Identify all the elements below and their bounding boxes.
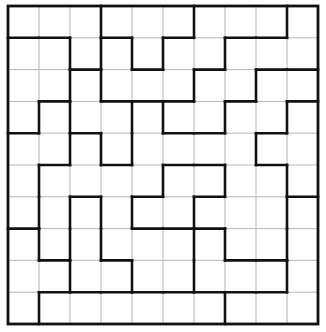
grid-cell[interactable]: [256, 133, 287, 165]
grid-cell[interactable]: [194, 70, 225, 102]
grid-cell[interactable]: [194, 260, 225, 292]
grid-cell[interactable]: [132, 38, 163, 70]
grid-cell[interactable]: [194, 38, 225, 70]
grid-cell[interactable]: [70, 101, 101, 133]
grid-cell[interactable]: [287, 229, 318, 261]
grid-cell[interactable]: [163, 70, 194, 102]
grid-cell[interactable]: [8, 38, 39, 70]
grid-cell[interactable]: [163, 38, 194, 70]
grid-cell[interactable]: [39, 70, 70, 102]
grid-cell[interactable]: [70, 133, 101, 165]
grid-cell[interactable]: [287, 70, 318, 102]
grid-cell[interactable]: [225, 70, 256, 102]
grid-cell[interactable]: [132, 229, 163, 261]
grid-cell[interactable]: [225, 38, 256, 70]
grid-cell[interactable]: [287, 165, 318, 197]
grid-cell[interactable]: [101, 70, 132, 102]
grid-cell[interactable]: [225, 292, 256, 324]
grid-cell[interactable]: [8, 292, 39, 324]
grid-cell[interactable]: [163, 165, 194, 197]
grid-cell[interactable]: [194, 229, 225, 261]
grid-cell[interactable]: [70, 165, 101, 197]
grid-cell[interactable]: [101, 38, 132, 70]
grid-cell[interactable]: [132, 292, 163, 324]
grid-cell[interactable]: [163, 260, 194, 292]
grid-cell[interactable]: [101, 292, 132, 324]
grid-cell[interactable]: [132, 6, 163, 38]
grid-cell[interactable]: [8, 101, 39, 133]
grid-cell[interactable]: [163, 101, 194, 133]
grid-cell[interactable]: [287, 260, 318, 292]
grid-cell[interactable]: [8, 260, 39, 292]
grid-cell[interactable]: [8, 197, 39, 229]
grid-cell[interactable]: [39, 101, 70, 133]
grid-cell[interactable]: [8, 133, 39, 165]
grid-cell[interactable]: [132, 101, 163, 133]
grid-cell[interactable]: [132, 197, 163, 229]
grid-cell[interactable]: [8, 6, 39, 38]
grid-cell[interactable]: [101, 197, 132, 229]
grid-cell[interactable]: [132, 133, 163, 165]
grid-cell[interactable]: [8, 229, 39, 261]
grid-cell[interactable]: [163, 133, 194, 165]
grid-cell[interactable]: [194, 101, 225, 133]
grid-cell[interactable]: [8, 165, 39, 197]
grid-cell[interactable]: [101, 133, 132, 165]
grid-cell[interactable]: [225, 197, 256, 229]
grid-cell[interactable]: [256, 70, 287, 102]
grid-cell[interactable]: [39, 38, 70, 70]
grid-cell[interactable]: [225, 229, 256, 261]
grid-cell[interactable]: [39, 133, 70, 165]
grid-cell[interactable]: [39, 229, 70, 261]
grid-cell[interactable]: [163, 229, 194, 261]
grid-cell[interactable]: [256, 101, 287, 133]
grid-cell[interactable]: [287, 197, 318, 229]
grid-cell[interactable]: [39, 260, 70, 292]
grid-cell[interactable]: [163, 197, 194, 229]
grid-cell[interactable]: [101, 165, 132, 197]
grid-cell[interactable]: [194, 197, 225, 229]
grid-cell[interactable]: [39, 292, 70, 324]
puzzle-grid[interactable]: [0, 0, 326, 332]
grid-cell[interactable]: [70, 260, 101, 292]
grid-cell[interactable]: [194, 165, 225, 197]
grid-cell[interactable]: [256, 260, 287, 292]
grid-cell[interactable]: [194, 6, 225, 38]
grid-cell[interactable]: [101, 229, 132, 261]
grid-cell[interactable]: [70, 197, 101, 229]
grid-cell[interactable]: [132, 260, 163, 292]
grid-cell[interactable]: [194, 133, 225, 165]
grid-cell[interactable]: [287, 292, 318, 324]
grid-cell[interactable]: [132, 70, 163, 102]
grid-cell[interactable]: [256, 165, 287, 197]
grid-cell[interactable]: [256, 292, 287, 324]
grid-cell[interactable]: [101, 260, 132, 292]
grid-cell[interactable]: [39, 6, 70, 38]
grid-cell[interactable]: [70, 38, 101, 70]
grid-cell[interactable]: [256, 6, 287, 38]
grid-cell[interactable]: [225, 260, 256, 292]
grid-cell[interactable]: [132, 165, 163, 197]
grid-cell[interactable]: [225, 165, 256, 197]
grid-cell[interactable]: [287, 6, 318, 38]
grid-cell[interactable]: [8, 70, 39, 102]
grid-cell[interactable]: [287, 38, 318, 70]
grid-cell[interactable]: [256, 38, 287, 70]
grid-cell[interactable]: [287, 101, 318, 133]
grid-cell[interactable]: [225, 101, 256, 133]
grid-cell[interactable]: [256, 197, 287, 229]
grid-cell[interactable]: [163, 292, 194, 324]
grid-cell[interactable]: [70, 229, 101, 261]
grid-cell[interactable]: [287, 133, 318, 165]
grid-cell[interactable]: [39, 197, 70, 229]
grid-cell[interactable]: [70, 6, 101, 38]
grid-cell[interactable]: [225, 6, 256, 38]
grid-cell[interactable]: [194, 292, 225, 324]
grid-cell[interactable]: [101, 101, 132, 133]
grid-cell[interactable]: [70, 292, 101, 324]
grid-cell[interactable]: [225, 133, 256, 165]
grid-cell[interactable]: [101, 6, 132, 38]
grid-cell[interactable]: [163, 6, 194, 38]
grid-cell[interactable]: [39, 165, 70, 197]
grid-cell[interactable]: [256, 229, 287, 261]
